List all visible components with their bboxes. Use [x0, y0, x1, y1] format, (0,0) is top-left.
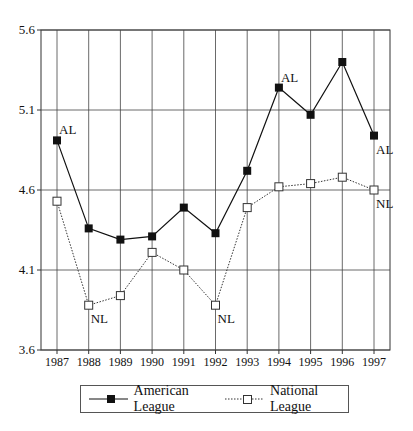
data-point-american-league — [148, 232, 156, 240]
data-point-american-league — [53, 136, 61, 144]
annotation-label: AL — [376, 142, 393, 157]
data-point-american-league — [85, 224, 93, 232]
data-point-national-league — [338, 173, 346, 181]
x-tick-label: 1995 — [299, 355, 323, 369]
data-point-american-league — [338, 58, 346, 66]
x-tick-label: 1991 — [172, 355, 196, 369]
data-point-american-league — [275, 84, 283, 92]
x-tick-label: 1988 — [77, 355, 101, 369]
data-point-national-league — [85, 301, 93, 309]
legend-item-national-league: National League — [225, 383, 348, 415]
data-point-national-league — [275, 183, 283, 191]
data-point-american-league — [243, 167, 251, 175]
data-point-national-league — [116, 292, 124, 300]
line-chart: 3.64.14.65.15.61987198819891990199119921… — [0, 0, 413, 380]
data-point-american-league — [370, 132, 378, 140]
x-tick-label: 1989 — [108, 355, 132, 369]
legend-item-american-league: American League — [89, 383, 217, 415]
annotation-label: NL — [376, 196, 393, 211]
data-point-national-league — [370, 186, 378, 194]
annotation-label: NL — [218, 311, 235, 326]
data-point-national-league — [212, 301, 220, 309]
data-point-american-league — [307, 111, 315, 119]
x-tick-label: 1997 — [362, 355, 386, 369]
y-tick-label: 3.6 — [19, 342, 36, 357]
y-tick-label: 5.1 — [19, 102, 35, 117]
legend-label-american-league: American League — [134, 383, 218, 415]
y-tick-label: 5.6 — [19, 22, 36, 37]
x-tick-label: 1990 — [140, 355, 164, 369]
y-tick-label: 4.1 — [19, 262, 35, 277]
legend-label-national-league: National League — [270, 383, 348, 415]
annotation-label: AL — [281, 70, 298, 85]
filled-square-marker-icon — [89, 393, 128, 405]
data-point-national-league — [243, 204, 251, 212]
x-tick-label: 1987 — [45, 355, 69, 369]
data-point-national-league — [148, 248, 156, 256]
x-tick-label: 1992 — [204, 355, 228, 369]
data-point-american-league — [180, 204, 188, 212]
data-point-national-league — [180, 266, 188, 274]
y-tick-label: 4.6 — [19, 182, 36, 197]
annotation-label: NL — [91, 311, 108, 326]
annotation-label: AL — [59, 122, 76, 137]
data-point-american-league — [116, 236, 124, 244]
open-square-marker-icon — [225, 393, 264, 405]
data-point-national-league — [307, 180, 315, 188]
data-point-national-league — [53, 197, 61, 205]
legend: American League National League — [80, 385, 349, 413]
data-point-american-league — [212, 229, 220, 237]
x-tick-label: 1996 — [330, 355, 354, 369]
x-tick-label: 1993 — [235, 355, 259, 369]
x-tick-label: 1994 — [267, 355, 291, 369]
